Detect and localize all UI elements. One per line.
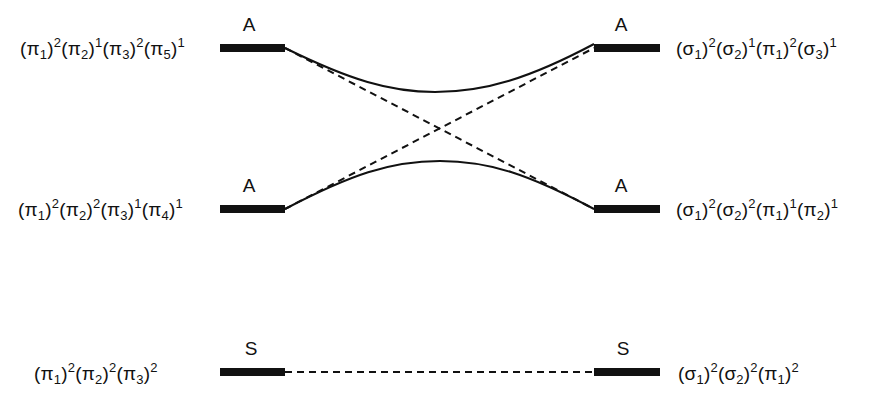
symmetry-label-right-upper: A bbox=[606, 15, 636, 34]
level-bar-right-middle bbox=[594, 205, 660, 213]
level-bar-left-upper bbox=[220, 44, 285, 52]
level-bar-left-middle bbox=[220, 205, 285, 213]
symmetry-label-right-middle: A bbox=[606, 176, 636, 195]
config-label-left-lower: (π1)2(π2)2(π3)2 bbox=[34, 364, 158, 383]
level-bar-right-lower bbox=[594, 368, 660, 376]
config-label-right-lower: (σ1)2(σ2)2(π1)2 bbox=[678, 364, 799, 383]
avoided-crossing-upper-curve bbox=[285, 44, 594, 92]
symmetry-label-left-middle: A bbox=[234, 176, 264, 195]
symmetry-label-left-lower: S bbox=[236, 339, 266, 358]
symmetry-label-right-lower: S bbox=[608, 339, 638, 358]
config-label-left-upper: (π1)2(π2)1(π3)2(π5)1 bbox=[20, 39, 185, 58]
level-bar-right-upper bbox=[594, 44, 660, 52]
config-label-right-middle: (σ1)2(σ2)2(π1)1(π2)1 bbox=[676, 200, 838, 219]
symmetry-label-left-upper: A bbox=[234, 15, 264, 34]
level-bar-left-lower bbox=[220, 368, 285, 376]
config-label-right-upper: (σ1)2(σ2)1(π1)2(σ3)1 bbox=[676, 39, 837, 58]
config-label-left-middle: (π1)2(π2)2(π3)1(π4)1 bbox=[18, 200, 183, 219]
